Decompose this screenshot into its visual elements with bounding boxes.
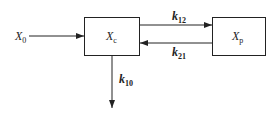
peripheral-compartment-label: Xp	[232, 30, 243, 47]
k10-label: k10	[119, 73, 133, 90]
input-label: X0	[15, 30, 26, 47]
k12-label: k12	[172, 10, 186, 27]
central-compartment-label: Xc	[106, 30, 117, 47]
k21-label: k21	[172, 46, 186, 63]
diagram-canvas	[0, 0, 278, 113]
